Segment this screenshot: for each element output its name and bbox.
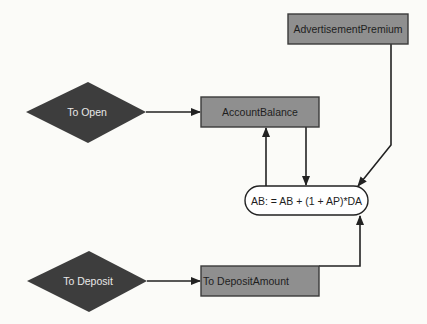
edges [146, 44, 391, 281]
flowchart-canvas: To Open To Deposit AdvertisementPremium … [0, 0, 427, 324]
edge-deposit-amount-to-formula [319, 216, 360, 266]
advertisement-premium-label: AdvertisementPremium [293, 23, 402, 35]
account-balance-label: AccountBalance [222, 106, 298, 118]
to-open-node[interactable]: To Open [26, 82, 146, 143]
to-deposit-label: To Deposit [63, 275, 113, 287]
formula-label: AB: = AB + (1 + AP)*DA [251, 195, 362, 207]
account-balance-node[interactable]: AccountBalance [201, 97, 319, 127]
formula-node[interactable]: AB: = AB + (1 + AP)*DA [245, 186, 368, 215]
to-open-label: To Open [67, 106, 107, 118]
edge-premium-to-formula [358, 44, 391, 186]
advertisement-premium-node[interactable]: AdvertisementPremium [288, 14, 408, 44]
deposit-amount-label: To DepositAmount [203, 275, 289, 287]
deposit-amount-node[interactable]: To DepositAmount [201, 266, 319, 296]
to-deposit-node[interactable]: To Deposit [27, 251, 147, 312]
